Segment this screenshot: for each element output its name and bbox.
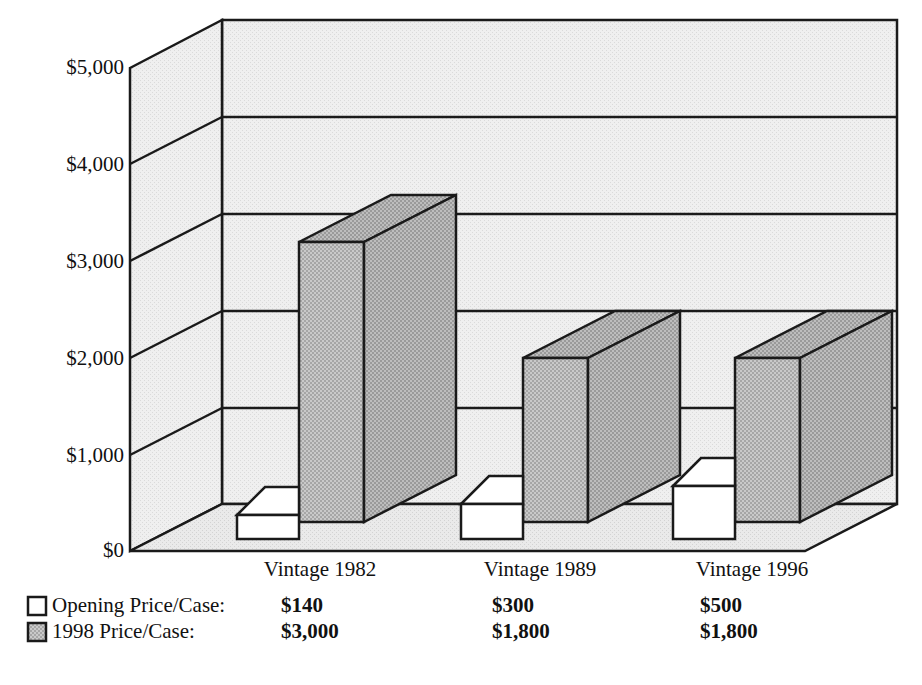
legend-row-opening-price[interactable]: Opening Price/Case: $140 $300 $500 (28, 593, 742, 617)
legend-label-1998-price: 1998 Price/Case: (52, 619, 195, 643)
legend-value-1996-opening: $500 (700, 593, 742, 617)
y-tick-label: $0 (103, 538, 124, 562)
category-label-vintage-1989: Vintage 1989 (484, 557, 596, 581)
legend-label-opening-price: Opening Price/Case: (52, 593, 225, 617)
white-swatch-icon (28, 597, 46, 615)
legend-value-1989-opening: $300 (492, 593, 534, 617)
category-label-vintage-1996: Vintage 1996 (696, 557, 808, 581)
legend-value-1996-1998: $1,800 (700, 619, 758, 643)
legend: Opening Price/Case: $140 $300 $500 1998 … (28, 593, 758, 643)
y-tick-label: $3,000 (66, 249, 124, 273)
y-tick-label: $5,000 (66, 55, 124, 79)
plot-left-wall (130, 20, 222, 551)
gray-swatch-icon (28, 623, 46, 641)
legend-value-1982-opening: $140 (281, 593, 323, 617)
x-axis-labels: Vintage 1982 Vintage 1989 Vintage 1996 (264, 557, 808, 581)
category-label-vintage-1982: Vintage 1982 (264, 557, 376, 581)
legend-value-1989-1998: $1,800 (492, 619, 550, 643)
y-axis-labels: $5,000 $4,000 $3,000 $2,000 $1,000 $0 (66, 55, 124, 562)
legend-row-1998-price[interactable]: 1998 Price/Case: $3,000 $1,800 $1,800 (28, 619, 758, 643)
y-tick-label: $1,000 (66, 443, 124, 467)
y-tick-label: $4,000 (66, 152, 124, 176)
three-d-bar-chart: $5,000 $4,000 $3,000 $2,000 $1,000 $0 (0, 0, 922, 685)
legend-value-1982-1998: $3,000 (281, 619, 339, 643)
y-tick-label: $2,000 (66, 346, 124, 370)
bar-1998-price-1982[interactable] (299, 195, 456, 522)
chart-container: $5,000 $4,000 $3,000 $2,000 $1,000 $0 (0, 0, 922, 685)
